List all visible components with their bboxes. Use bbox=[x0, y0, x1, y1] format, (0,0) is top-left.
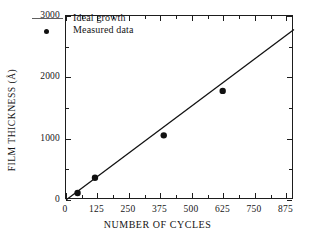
y-tick-minor-right bbox=[289, 108, 292, 109]
legend-item-measured-data: Measured data bbox=[32, 25, 172, 37]
x-tick-major-top bbox=[223, 16, 224, 21]
x-tick-minor-top bbox=[208, 16, 209, 19]
x-tick-label: 125 bbox=[89, 204, 104, 215]
x-tick-minor-top bbox=[271, 16, 272, 19]
series-line-ideal-growth bbox=[66, 29, 294, 200]
data-point-measured bbox=[220, 88, 226, 94]
x-tick-major-top bbox=[192, 16, 193, 21]
y-tick-label: 0 bbox=[22, 194, 60, 205]
x-tick-label: 375 bbox=[152, 204, 167, 215]
y-tick-minor bbox=[66, 47, 69, 48]
x-tick-major bbox=[223, 193, 224, 198]
x-tick-major bbox=[160, 193, 161, 198]
y-tick-major bbox=[66, 200, 71, 201]
legend: Ideal growth Measured data bbox=[32, 13, 172, 37]
y-tick-major-right bbox=[287, 16, 292, 17]
x-tick-minor bbox=[239, 195, 240, 198]
x-tick-label: 250 bbox=[121, 204, 136, 215]
legend-line-swatch bbox=[32, 13, 66, 25]
x-tick-label: 500 bbox=[184, 204, 199, 215]
x-axis-label: NUMBER OF CYCLES bbox=[0, 219, 315, 230]
x-tick-major bbox=[286, 193, 287, 198]
y-axis-label: FILM THICKNESS (Å) bbox=[6, 68, 17, 171]
y-tick-minor bbox=[66, 108, 69, 109]
x-tick-major bbox=[255, 193, 256, 198]
y-tick-major-right bbox=[287, 200, 292, 201]
y-axis-label-container: FILM THICKNESS (Å) bbox=[0, 0, 22, 239]
legend-dot-swatch bbox=[32, 25, 66, 37]
y-tick-minor-right bbox=[289, 47, 292, 48]
x-tick-minor bbox=[145, 195, 146, 198]
y-tick-major-right bbox=[287, 139, 292, 140]
x-tick-minor-top bbox=[176, 16, 177, 19]
x-tick-major bbox=[192, 193, 193, 198]
data-point-measured bbox=[161, 132, 167, 138]
x-tick-minor bbox=[82, 195, 83, 198]
x-tick-label: 875 bbox=[278, 204, 293, 215]
x-tick-minor bbox=[176, 195, 177, 198]
x-tick-label: 625 bbox=[215, 204, 230, 215]
y-tick-major-right bbox=[287, 77, 292, 78]
data-point-measured bbox=[74, 190, 80, 196]
x-tick-minor bbox=[113, 195, 114, 198]
y-tick-label: 2000 bbox=[22, 71, 60, 82]
x-tick-major-top bbox=[255, 16, 256, 21]
y-tick-minor bbox=[66, 169, 69, 170]
y-tick-major bbox=[66, 139, 71, 140]
x-tick-minor bbox=[208, 195, 209, 198]
x-tick-minor-top bbox=[239, 16, 240, 19]
y-tick-major bbox=[66, 77, 71, 78]
x-tick-label: 750 bbox=[247, 204, 262, 215]
x-tick-major bbox=[97, 193, 98, 198]
y-tick-minor-right bbox=[289, 169, 292, 170]
x-tick-minor bbox=[271, 195, 272, 198]
legend-label-ideal-growth: Ideal growth bbox=[73, 12, 126, 23]
y-tick-label: 1000 bbox=[22, 132, 60, 143]
x-tick-major bbox=[66, 193, 67, 198]
x-tick-major bbox=[129, 193, 130, 198]
x-tick-label: 0 bbox=[63, 204, 68, 215]
legend-label-measured-data: Measured data bbox=[73, 24, 134, 35]
data-layer bbox=[66, 16, 294, 200]
data-point-measured bbox=[92, 175, 98, 181]
figure-canvas: FILM THICKNESS (Å) 012525037550062575087… bbox=[0, 0, 315, 239]
plot-area bbox=[65, 15, 293, 199]
